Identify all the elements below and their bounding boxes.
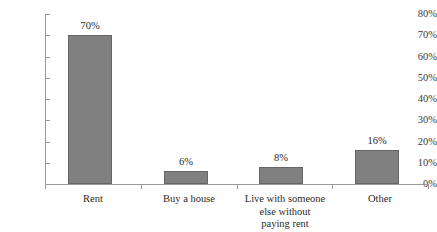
y-axis-label-30: 30% (399, 115, 437, 126)
bar-rent[interactable] (68, 35, 112, 184)
bar-chart: 80% 70% 60% 50% 40% 30% 20% 10% 0% 70% 6… (0, 0, 437, 232)
x-axis-tick (45, 184, 46, 189)
y-axis-label-80: 80% (399, 9, 437, 20)
x-axis-category-other-line-1: Other (332, 193, 428, 206)
x-axis-category-other: Other (332, 193, 428, 206)
x-axis-category-live-with-someone: Live with someone else without paying re… (235, 193, 335, 231)
x-axis-category-buy-a-house: Buy a house (141, 193, 237, 206)
y-axis-tick (45, 78, 50, 79)
y-axis-tick (45, 142, 50, 143)
y-axis-tick (45, 57, 50, 58)
x-axis-tick (141, 184, 142, 189)
y-axis-tick (45, 163, 50, 164)
bar-value-other: 16% (355, 136, 399, 147)
x-axis-category-buy-a-house-line-1: Buy a house (141, 193, 237, 206)
y-axis-tick (45, 99, 50, 100)
bar-other[interactable] (355, 150, 399, 184)
y-axis-label-40: 40% (399, 94, 437, 105)
bar-buy-a-house[interactable] (164, 171, 208, 184)
bar-value-buy-a-house: 6% (164, 157, 208, 168)
y-axis-label-20: 20% (399, 137, 437, 148)
x-axis-tick (237, 184, 238, 189)
x-axis-tick (428, 184, 429, 189)
x-axis-category-live-with-someone-line-3: paying rent (235, 218, 335, 231)
x-axis-category-live-with-someone-line-1: Live with someone (235, 193, 335, 206)
y-axis-label-60: 60% (399, 52, 437, 63)
y-axis-tick (45, 14, 50, 15)
y-axis-tick (45, 120, 50, 121)
bar-value-live-with-someone: 8% (259, 153, 303, 164)
bar-value-rent: 70% (68, 21, 112, 32)
bar-live-with-someone[interactable] (259, 167, 303, 184)
x-axis-category-live-with-someone-line-2: else without (235, 206, 335, 219)
y-axis-label-50: 50% (399, 73, 437, 84)
y-axis-label-10: 10% (399, 158, 437, 169)
x-axis-category-rent: Rent (45, 193, 141, 206)
x-axis-tick (332, 184, 333, 189)
y-axis-label-70: 70% (399, 30, 437, 41)
y-axis-tick (45, 35, 50, 36)
x-axis-category-rent-line-1: Rent (45, 193, 141, 206)
